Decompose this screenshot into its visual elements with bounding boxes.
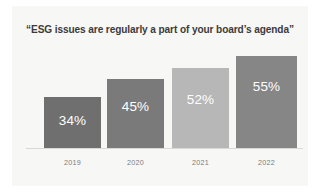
bar-value-2021: 52% xyxy=(172,93,229,107)
bar-value-2019: 34% xyxy=(44,114,101,128)
chart-title: “ESG issues are regularly a part of your… xyxy=(12,24,308,35)
x-tick-label-2022: 2022 xyxy=(236,158,297,167)
bar-value-2022: 55% xyxy=(236,80,297,94)
bar-2020[interactable]: 45% xyxy=(107,79,164,148)
bar-group-2020: 45% xyxy=(107,79,164,148)
bar-2021[interactable]: 52% xyxy=(172,68,229,148)
bar-group-2019: 34% xyxy=(44,97,101,148)
x-tick-label-2020: 2020 xyxy=(107,158,164,167)
chart-card: “ESG issues are regularly a part of your… xyxy=(12,6,308,186)
bar-group-2022: 55% xyxy=(236,56,297,148)
bar-value-2020: 45% xyxy=(107,100,164,114)
bar-chart-plot-area: 34% 45% 52% 55% xyxy=(26,42,296,148)
bar-2022[interactable]: 55% xyxy=(236,56,297,148)
bar-2019[interactable]: 34% xyxy=(44,97,101,148)
bar-group-2021: 52% xyxy=(172,68,229,148)
x-tick-label-2019: 2019 xyxy=(44,158,101,167)
x-axis-line xyxy=(26,148,303,149)
x-tick-label-2021: 2021 xyxy=(172,158,229,167)
